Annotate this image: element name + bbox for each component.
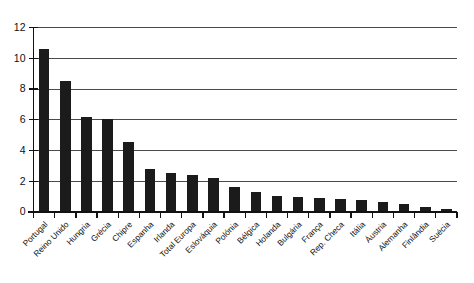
chart-canvas: 024681012 PortugalReino UnidoHungriaGréc… [0, 0, 474, 283]
bar [60, 81, 71, 212]
y-axis-tick-labels: 024681012 [14, 21, 26, 218]
bars [39, 49, 452, 212]
y-tick-label: 10 [14, 52, 26, 64]
bar [378, 202, 389, 212]
plot-area: 024681012 PortugalReino UnidoHungriaGréc… [0, 0, 474, 283]
bar [187, 175, 198, 212]
bar [399, 204, 410, 212]
bar [102, 119, 113, 212]
y-tick-label: 6 [20, 113, 26, 125]
bar [81, 117, 92, 212]
y-tick-label: 12 [14, 21, 26, 33]
bar-chart: 024681012 PortugalReino UnidoHungriaGréc… [0, 0, 474, 283]
bar [251, 192, 262, 212]
gridlines [34, 28, 458, 182]
bar [314, 198, 325, 212]
x-axis-tick-labels: PortugalReino UnidoHungriaGréciaChipreEs… [21, 219, 453, 259]
bar [272, 196, 283, 212]
y-tick-label: 0 [20, 205, 26, 217]
x-tick-label: Suécia [427, 219, 452, 244]
bar [208, 178, 219, 212]
x-tick-label: Polónia [213, 219, 240, 246]
y-tick-label: 4 [20, 144, 26, 156]
x-tick-label: Grécia [89, 219, 114, 244]
bar [166, 173, 177, 212]
bar [335, 199, 346, 212]
x-axis-ticks [34, 212, 458, 218]
y-tick-label: 2 [20, 175, 26, 187]
bar [229, 187, 240, 212]
x-tick-label: Hungria [64, 219, 92, 247]
bar [420, 207, 431, 212]
bar [123, 142, 134, 212]
bar [356, 200, 367, 212]
bar [145, 169, 156, 212]
bar [293, 197, 304, 212]
y-tick-label: 8 [20, 82, 26, 94]
bar [39, 49, 50, 212]
